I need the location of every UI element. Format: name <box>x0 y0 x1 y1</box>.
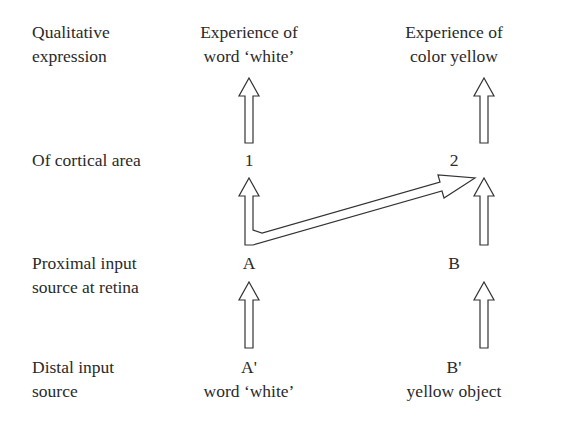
arrow-1-to-exp-white <box>239 78 259 143</box>
arrow-A-to-1 <box>239 175 475 245</box>
arrow-B-to-2 <box>474 178 494 245</box>
arrow-Aprime-to-A <box>239 282 259 348</box>
arrows-layer <box>0 0 584 425</box>
arrow-2-to-exp-yellow <box>474 78 494 143</box>
arrow-Bprime-to-B <box>474 282 494 348</box>
